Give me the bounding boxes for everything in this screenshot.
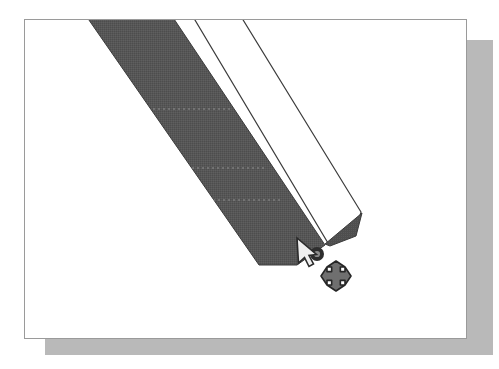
artboard[interactable] <box>25 20 466 338</box>
vertex-handle-center-dot[interactable] <box>314 251 320 257</box>
artwork-vector-layer[interactable] <box>25 20 466 338</box>
vertex-handle[interactable] <box>310 247 324 261</box>
screenshot-stage <box>0 0 499 369</box>
document-page[interactable] <box>24 19 467 339</box>
